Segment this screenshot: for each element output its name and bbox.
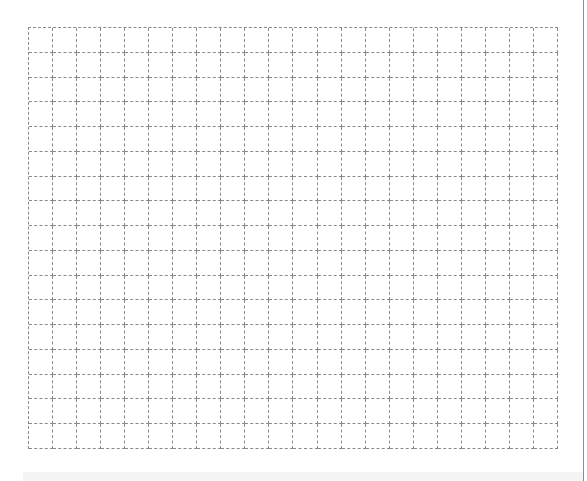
grid-cell [173, 226, 197, 251]
grid-cell [269, 325, 293, 350]
grid-cell [149, 102, 173, 127]
grid-cell [149, 300, 173, 325]
dashed-grid [28, 27, 558, 449]
grid-cell [149, 152, 173, 177]
grid-cell [438, 78, 462, 103]
grid-cell [29, 325, 53, 350]
grid-cell [342, 226, 366, 251]
grid-cell [318, 276, 342, 301]
grid-cell [438, 276, 462, 301]
grid-cell [269, 375, 293, 400]
grid-cell [221, 300, 245, 325]
grid-cell [269, 399, 293, 424]
grid-cell [486, 78, 510, 103]
grid-cell [77, 152, 101, 177]
grid-cell [510, 325, 534, 350]
grid-cell [486, 102, 510, 127]
grid-cell [269, 53, 293, 78]
grid-cell [510, 201, 534, 226]
grid-cell [390, 375, 414, 400]
grid-cell [486, 300, 510, 325]
grid-cell [149, 127, 173, 152]
grid-cell [197, 127, 221, 152]
grid-cell [269, 424, 293, 449]
grid-cell [77, 399, 101, 424]
grid-cell [366, 399, 390, 424]
grid-cell [125, 325, 149, 350]
grid-cell [414, 152, 438, 177]
grid-cell [414, 226, 438, 251]
grid-cell [534, 127, 558, 152]
grid-cell [173, 325, 197, 350]
grid-cell [486, 350, 510, 375]
grid-cell [101, 300, 125, 325]
grid-cell [414, 53, 438, 78]
grid-cell [390, 226, 414, 251]
grid-cell [534, 102, 558, 127]
grid-cell [221, 424, 245, 449]
grid-cell [414, 300, 438, 325]
grid-cell [125, 28, 149, 53]
grid-cell [534, 152, 558, 177]
grid-cell [29, 102, 53, 127]
grid-cell [125, 424, 149, 449]
grid-cell [53, 53, 77, 78]
grid-cell [53, 276, 77, 301]
grid-cell [77, 201, 101, 226]
grid-cell [438, 399, 462, 424]
grid-cell [510, 28, 534, 53]
grid-cell [293, 276, 317, 301]
grid-cell [245, 127, 269, 152]
grid-cell [245, 350, 269, 375]
grid-cell [29, 424, 53, 449]
grid-cell [342, 325, 366, 350]
grid-cell [245, 201, 269, 226]
grid-cell [173, 375, 197, 400]
grid-cell [197, 375, 221, 400]
grid-cell [366, 325, 390, 350]
grid-cell [390, 424, 414, 449]
grid-cell [318, 399, 342, 424]
grid-cell [53, 424, 77, 449]
grid-cell [510, 226, 534, 251]
grid-cell [53, 28, 77, 53]
grid-cell [390, 251, 414, 276]
grid-cell [101, 28, 125, 53]
grid-cell [53, 201, 77, 226]
grid-cell [197, 78, 221, 103]
grid-cell [390, 399, 414, 424]
grid-cell [125, 399, 149, 424]
grid-cell [53, 300, 77, 325]
grid-cell [101, 152, 125, 177]
grid-cell [534, 399, 558, 424]
grid-cell [318, 53, 342, 78]
grid-cell [221, 78, 245, 103]
grid-cell [318, 201, 342, 226]
grid-cell [462, 325, 486, 350]
grid-cell [101, 201, 125, 226]
grid-cell [173, 127, 197, 152]
grid-cell [149, 28, 173, 53]
grid-cell [486, 201, 510, 226]
grid-cell [318, 28, 342, 53]
grid-cell [149, 276, 173, 301]
grid-cell [269, 350, 293, 375]
grid-cell [101, 251, 125, 276]
grid-cell [534, 201, 558, 226]
grid-cell [414, 28, 438, 53]
grid-cell [269, 251, 293, 276]
grid-cell [101, 375, 125, 400]
grid-cell [293, 102, 317, 127]
grid-cell [173, 300, 197, 325]
grid-cell [414, 276, 438, 301]
grid-cell [390, 300, 414, 325]
grid-cell [125, 102, 149, 127]
grid-cell [534, 276, 558, 301]
grid-cell [245, 152, 269, 177]
grid-cell [29, 300, 53, 325]
grid-cell [342, 424, 366, 449]
grid-cell [486, 53, 510, 78]
grid-cell [414, 399, 438, 424]
grid-cell [293, 28, 317, 53]
grid-cell [534, 325, 558, 350]
